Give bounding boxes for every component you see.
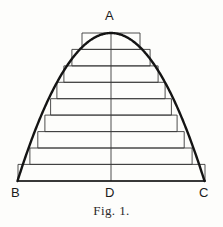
vertex-label-base-right: C (199, 186, 209, 199)
figure-caption: Fig. 1. (0, 203, 223, 219)
vertex-label-base-center: D (105, 186, 115, 199)
vertex-label-apex: A (105, 9, 114, 22)
vertex-label-base-left: B (11, 186, 20, 199)
inscribed-rectangle (18, 164, 205, 181)
figure-container: A B D C Fig. 1. (0, 0, 223, 227)
